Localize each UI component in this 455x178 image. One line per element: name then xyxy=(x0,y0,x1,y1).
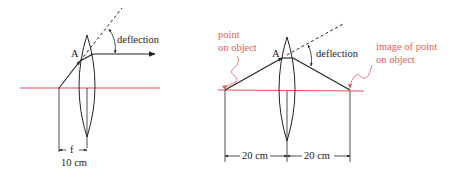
deflection-label: deflection xyxy=(117,34,160,45)
right-diagram: A deflection point on object image of po… xyxy=(218,24,437,162)
object-annotation-line2: on object xyxy=(218,42,257,53)
optical-axis xyxy=(218,90,364,91)
undeflected-path xyxy=(80,8,122,61)
lens-diagrams: A deflection f 10 cm A deflection point … xyxy=(0,0,455,178)
image-pointer-arrowhead xyxy=(348,84,352,89)
point-a-label: A xyxy=(272,48,280,59)
deflection-arc xyxy=(308,45,312,66)
deflection-arc xyxy=(109,29,115,53)
object-annotation-line1: point xyxy=(218,29,240,40)
outgoing-ray xyxy=(293,58,350,90)
image-annotation-line1: image of point xyxy=(376,41,437,52)
incoming-ray xyxy=(225,58,282,90)
point-a-label: A xyxy=(71,48,79,59)
image-pointer-squiggle xyxy=(350,65,372,87)
incoming-ray xyxy=(59,61,80,88)
deflection-label: deflection xyxy=(316,48,359,59)
focal-distance: 10 cm xyxy=(61,157,87,168)
focal-symbol: f xyxy=(70,144,74,155)
image-distance: 20 cm xyxy=(304,150,330,161)
left-diagram: A deflection f 10 cm xyxy=(20,8,160,168)
object-distance: 20 cm xyxy=(242,150,268,161)
image-annotation-line2: on object xyxy=(376,54,415,65)
